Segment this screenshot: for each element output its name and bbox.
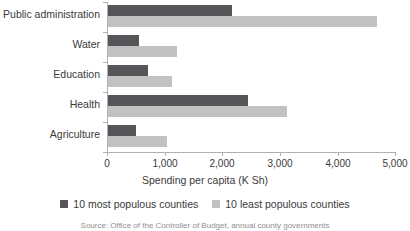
x-axis-tick (338, 152, 339, 156)
plot-area: Public administration Water Education He… (0, 0, 410, 160)
bar-health-least-populous (108, 106, 287, 117)
legend-swatch-icon (60, 200, 68, 208)
legend-label-most-populous: 10 most populous counties (73, 198, 198, 210)
x-axis-tick-label-1000: 1,000 (152, 158, 177, 170)
bar-agriculture-least-populous (108, 136, 167, 147)
y-axis-tick (103, 122, 107, 123)
bar-public-administration-least-populous (108, 16, 377, 27)
bar-water-least-populous (108, 46, 177, 57)
source-note: Source: Office of the Controller of Budg… (0, 221, 410, 231)
y-axis-tick (103, 92, 107, 93)
bar-health-most-populous (108, 95, 248, 106)
x-axis-tick (222, 152, 223, 156)
legend-item-most-populous: 10 most populous counties (60, 198, 198, 210)
bar-chart-figure: Public administration Water Education He… (0, 0, 410, 231)
x-axis-tick (107, 152, 108, 156)
category-label-water: Water (72, 38, 100, 50)
chart-legend: 10 most populous counties 10 least popul… (0, 198, 410, 210)
x-axis-tick (165, 152, 166, 156)
x-axis-title: Spending per capita (K Sh) (0, 174, 410, 186)
x-axis-line (107, 152, 395, 153)
legend-swatch-icon (212, 200, 220, 208)
x-axis-tick-label-3000: 3,000 (267, 158, 292, 170)
x-axis-tick (280, 152, 281, 156)
category-label-public-administration: Public administration (3, 8, 100, 20)
category-label-education: Education (53, 68, 100, 80)
bars-container (108, 2, 396, 152)
y-axis-tick (103, 62, 107, 63)
bar-education-least-populous (108, 76, 172, 87)
bar-water-most-populous (108, 35, 139, 46)
category-axis-labels: Public administration Water Education He… (0, 0, 104, 152)
bar-agriculture-most-populous (108, 125, 136, 136)
legend-item-least-populous: 10 least populous counties (212, 198, 349, 210)
bar-education-most-populous (108, 65, 148, 76)
category-label-health: Health (70, 98, 100, 110)
y-axis-tick (103, 32, 107, 33)
x-axis-tick (395, 152, 396, 156)
x-axis-tick-label-0: 0 (104, 158, 110, 170)
y-axis-tick (103, 2, 107, 3)
x-axis-tick-label-2000: 2,000 (209, 158, 234, 170)
legend-label-least-populous: 10 least populous counties (225, 198, 349, 210)
category-label-agriculture: Agriculture (50, 128, 100, 140)
x-axis-tick-label-5000: 5,000 (382, 158, 407, 170)
x-axis-tick-label-4000: 4,000 (325, 158, 350, 170)
bar-public-administration-most-populous (108, 5, 232, 16)
